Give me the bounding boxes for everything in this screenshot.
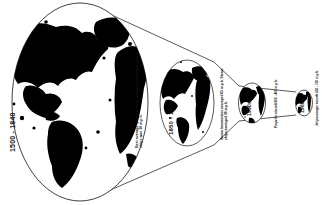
caption-panel-4: Jet passenger aircraft 500 - 700 m.p.h. <box>316 64 319 126</box>
date-label-panel-2: 1850 - 1930 <box>168 101 174 135</box>
caption-panel-1: Best average speed of horse drawn coache… <box>135 52 143 148</box>
caption-panel-3: Propeller aircraft 300 - 400 m.p.h. <box>275 66 278 128</box>
shrinking-world-figure: 1500 - 1840 1850 - 1930 1950s 1960s Best… <box>0 0 322 205</box>
date-label-panel-3: 1950s <box>247 101 252 116</box>
globe-1950s <box>239 83 266 133</box>
globe-1500-1840 <box>11 3 148 201</box>
date-label-panel-4: 1960s <box>300 98 305 113</box>
date-label-panel-1: 1500 - 1840 <box>9 112 16 152</box>
caption-panel-2: Steam locomotives averaged 65 m.p.h. Ste… <box>221 66 228 140</box>
